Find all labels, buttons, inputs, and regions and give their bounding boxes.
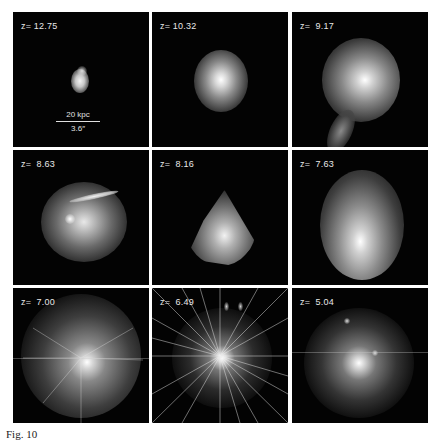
- figure-caption: Fig. 10: [6, 428, 37, 440]
- scale-bar: 20 kpc 3.6″: [56, 110, 100, 133]
- artifact-line: [292, 352, 428, 353]
- panel-z-10-32: z= 10.32: [152, 12, 288, 147]
- satellite-galaxy: [344, 318, 350, 324]
- galaxy-image: [194, 50, 248, 112]
- redshift-label: z= 9.17: [300, 21, 334, 31]
- redshift-label: z= 7.00: [21, 297, 55, 307]
- panel-z-12-75: z= 12.75 20 kpc 3.6″: [13, 12, 149, 147]
- diffraction-spikes: [13, 288, 149, 423]
- galaxy-core: [65, 214, 75, 224]
- artifact-line: [13, 358, 149, 359]
- galaxy-clump: [77, 66, 87, 76]
- redshift-label: z= 8.63: [21, 159, 55, 169]
- galaxy-image: [322, 38, 400, 122]
- panel-z-5-04: z= 5.04: [292, 288, 428, 423]
- redshift-label: z= 10.32: [160, 21, 196, 31]
- panel-z-8-16: z= 8.16: [152, 150, 288, 285]
- galaxy-image: [186, 190, 256, 266]
- redshift-label: z= 5.04: [300, 297, 334, 307]
- satellite-galaxy: [238, 302, 243, 311]
- scale-bar-line: [56, 121, 100, 122]
- satellite-galaxy: [224, 302, 229, 311]
- panel-z-8-63: z= 8.63: [13, 150, 149, 285]
- galaxy-image: [41, 182, 127, 262]
- galaxy-evolution-figure: z= 12.75 20 kpc 3.6″ z= 10.32 z= 9.17 z=…: [13, 12, 430, 425]
- redshift-label: z= 8.16: [160, 159, 194, 169]
- panel-z-9-17: z= 9.17: [292, 12, 428, 147]
- diffraction-spikes: [152, 288, 288, 423]
- panel-z-6-49: z= 6.49: [152, 288, 288, 423]
- redshift-label: z= 7.63: [300, 159, 334, 169]
- scale-bar-physical: 20 kpc: [56, 110, 100, 119]
- redshift-label: z= 12.75: [21, 21, 57, 31]
- redshift-label: z= 6.49: [160, 297, 194, 307]
- galaxy-halo: [304, 308, 414, 418]
- galaxy-image: [320, 170, 404, 280]
- panel-z-7-63: z= 7.63: [292, 150, 428, 285]
- satellite-galaxy: [372, 350, 378, 356]
- panel-z-7-00: z= 7.00: [13, 288, 149, 423]
- scale-bar-angular: 3.6″: [56, 124, 100, 133]
